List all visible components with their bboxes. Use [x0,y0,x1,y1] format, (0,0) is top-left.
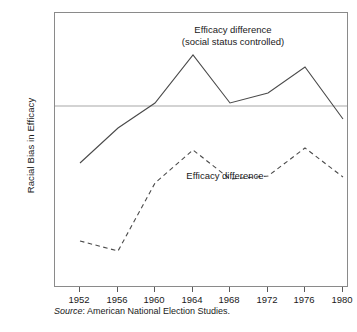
x-tick-mark-4 [229,287,230,292]
annotation-line-2: (social status controlled) [148,36,318,48]
x-tick-label-3: 1964 [172,294,212,305]
annotation-efficacy-difference-controlled: Efficacy difference (social status contr… [148,24,318,47]
chart-svg [55,13,347,286]
series-line-efficacy-difference-controlled [80,55,343,163]
source-note: Source: American National Election Studi… [54,306,230,316]
x-tick-mark-5 [267,287,268,292]
x-tick-mark-7 [342,287,343,292]
x-tick-label-5: 1972 [247,294,287,305]
x-tick-mark-3 [192,287,193,292]
x-tick-label-6: 1976 [284,294,324,305]
annotation-line-1: Efficacy difference [148,24,318,36]
y-axis-title: Racial Bias in Efficacy [25,46,36,246]
annotation-line-1: Efficacy difference [165,170,285,182]
x-tick-label-1: 1956 [97,294,137,305]
series-line-efficacy-difference [80,148,343,251]
x-tick-label-0: 1952 [59,294,99,305]
chart-figure: Racial Bias in Efficacy 0.4 0.2 0 -0.2 -… [0,0,357,332]
annotation-efficacy-difference: Efficacy difference [165,170,285,182]
x-tick-label-7: 1980 [322,294,357,305]
x-tick-label-2: 1960 [134,294,174,305]
x-tick-mark-2 [154,287,155,292]
source-text: : American National Election Studies. [83,306,231,316]
x-tick-mark-1 [117,287,118,292]
x-tick-mark-0 [79,287,80,292]
x-tick-mark-6 [304,287,305,292]
plot-area [54,12,348,287]
source-label: Source [54,306,83,316]
x-tick-label-4: 1968 [209,294,249,305]
